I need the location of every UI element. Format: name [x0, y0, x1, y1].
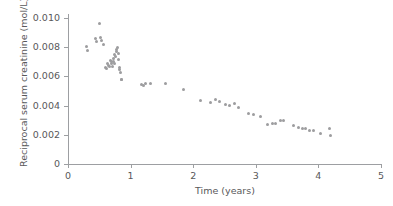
data-point [113, 62, 116, 65]
scatter-chart-figure: 00.0020.0040.0060.0080.010 012345 Recipr… [0, 0, 393, 206]
data-point [86, 49, 89, 52]
data-point [100, 39, 103, 42]
data-point [95, 40, 98, 43]
data-point [329, 134, 332, 137]
data-point [304, 127, 307, 130]
data-point [117, 58, 120, 61]
data-point [85, 45, 88, 48]
data-point [237, 106, 240, 109]
data-point [116, 46, 119, 49]
data-point [199, 99, 202, 102]
data-point [98, 22, 101, 25]
data-point [117, 52, 120, 55]
data-point [312, 129, 315, 132]
data-point [328, 127, 331, 130]
data-point [164, 82, 167, 85]
data-point [282, 119, 285, 122]
data-point [233, 102, 236, 105]
data-point [149, 82, 152, 85]
data-point [102, 43, 105, 46]
data-point [266, 123, 269, 126]
data-point [224, 103, 227, 106]
data-point [252, 113, 255, 116]
data-point [209, 101, 212, 104]
data-point [292, 124, 295, 127]
data-point [301, 127, 304, 130]
data-point [144, 82, 147, 85]
data-point [308, 129, 311, 132]
data-point [247, 112, 250, 115]
data-point [274, 122, 277, 125]
data-point [319, 132, 322, 135]
data-point [271, 122, 274, 125]
data-point [105, 67, 108, 70]
data-point [218, 100, 221, 103]
data-point [119, 71, 122, 74]
data-point [214, 98, 217, 101]
data-point [111, 65, 114, 68]
data-point [228, 104, 231, 107]
data-point [297, 126, 300, 129]
data-point [182, 88, 185, 91]
data-point [120, 78, 123, 81]
scatter-points-layer [0, 0, 393, 206]
data-point [259, 115, 262, 118]
